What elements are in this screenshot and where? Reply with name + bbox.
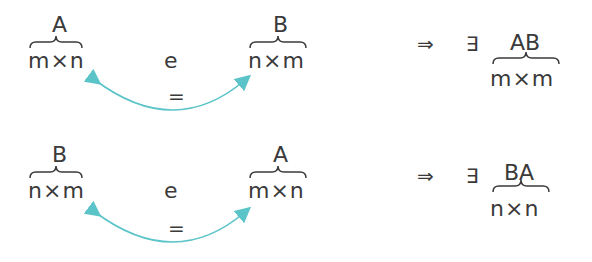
result-label: BA (504, 162, 534, 184)
equals-sign: = (168, 218, 185, 238)
result-dimension: n×n (490, 198, 539, 220)
matrix-label: B (52, 144, 67, 166)
matrix-label: A (273, 144, 288, 166)
brace-icon (250, 166, 306, 178)
dimension-label: n×m (248, 50, 305, 72)
matrix-label: B (273, 14, 288, 36)
brace-icon (250, 36, 306, 48)
exists-icon: ∃ (466, 34, 479, 54)
exists-icon: ∃ (466, 166, 479, 186)
dimension-label: m×n (248, 180, 305, 202)
result-label: AB (510, 32, 540, 54)
brace-icon (30, 36, 82, 48)
brace-icon (30, 166, 82, 178)
equals-sign: = (168, 86, 185, 106)
operator-label: e (164, 180, 178, 202)
matrix-product-diagram: A m×n e B n×m = ⇒ ∃ AB m×m B n×m e A m×n… (0, 0, 592, 262)
dimension-label: n×m (28, 180, 85, 202)
implies-icon: ⇒ (417, 166, 434, 186)
result-dimension: m×m (490, 68, 554, 90)
operator-label: e (164, 50, 178, 72)
matrix-label: A (52, 14, 67, 36)
dimension-label: m×n (28, 50, 85, 72)
braces-and-arrows (0, 0, 592, 262)
implies-icon: ⇒ (417, 34, 434, 54)
